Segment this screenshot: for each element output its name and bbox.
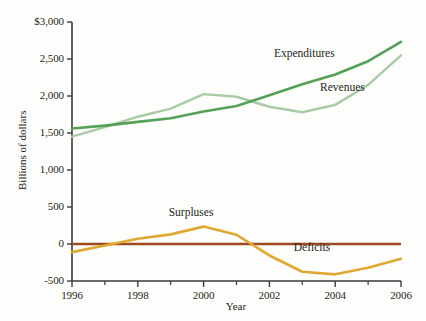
- series-label-deficits: Deficits: [294, 241, 330, 253]
- y-tick-label: 500: [8, 200, 64, 212]
- x-tick-label: 1996: [48, 289, 96, 301]
- chart-container: $3,0002,5002,0001,5001,0005000-500 19961…: [0, 0, 426, 321]
- x-axis-ticks: [72, 281, 401, 287]
- y-tick-label: $3,000: [8, 15, 64, 27]
- series-line-surpluses: [72, 227, 401, 275]
- x-tick-label: 1998: [114, 289, 162, 301]
- chart-plot-svg: [0, 0, 426, 321]
- y-tick-label: 2,000: [8, 89, 64, 101]
- y-tick-label: 0: [8, 237, 64, 249]
- series-label-revenues: Revenues: [320, 81, 365, 93]
- y-tick-label: 2,500: [8, 52, 64, 64]
- data-series-lines: [72, 42, 401, 274]
- series-label-expenditures: Expenditures: [274, 47, 335, 59]
- y-axis-title: Billions of dollars: [16, 111, 28, 190]
- x-tick-label: 2004: [311, 289, 359, 301]
- x-axis-title: Year: [176, 300, 296, 312]
- series-label-surpluses: Surpluses: [169, 206, 214, 218]
- y-tick-label: -500: [8, 274, 64, 286]
- x-tick-label: 2006: [377, 289, 425, 301]
